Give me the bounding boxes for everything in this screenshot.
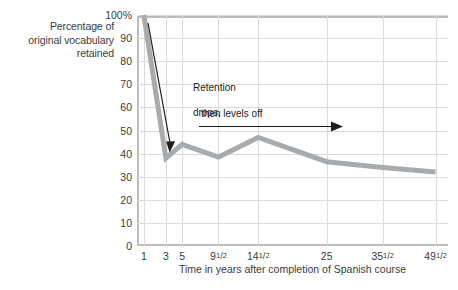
- y-tick-label: 30: [120, 171, 132, 183]
- y-axis-title-line-3: retained: [6, 47, 114, 61]
- annotation-then-levels-off: then levels off: [201, 108, 263, 121]
- annotation-retention-drops-line-1: Retention: [193, 82, 236, 95]
- gridline-vertical: [166, 15, 167, 246]
- x-tick-label: 491/2: [424, 250, 447, 262]
- gridline-horizontal: [137, 223, 448, 224]
- x-tick-label: 1: [141, 250, 147, 262]
- plot-area: 100%9080706050403020100 13591/2141/22535…: [137, 15, 448, 246]
- x-tick-label: 5: [179, 250, 185, 262]
- gridline-vertical: [383, 15, 384, 246]
- gridline-vertical: [182, 15, 183, 246]
- y-tick-label: 70: [120, 78, 132, 90]
- gridline-horizontal: [137, 200, 448, 201]
- x-axis-title: Time in years after completion of Spanis…: [137, 263, 448, 275]
- gridline-vertical: [258, 15, 259, 246]
- y-tick-label: 100%: [105, 9, 132, 21]
- chart-figure: Percentage of original vocabulary retain…: [0, 0, 458, 290]
- y-tick-label: 10: [120, 217, 132, 229]
- x-tick-label: 141/2: [247, 250, 270, 262]
- x-axis-line: [137, 244, 448, 246]
- gridline-horizontal: [137, 38, 448, 39]
- x-tick-label: 3: [163, 250, 169, 262]
- gridline-horizontal: [137, 177, 448, 178]
- y-tick-label: 50: [120, 125, 132, 137]
- y-tick-label: 20: [120, 194, 132, 206]
- x-tick-label: 351/2: [371, 250, 394, 262]
- gridline-horizontal: [137, 15, 448, 16]
- gridline-vertical: [436, 15, 437, 246]
- gridline-vertical: [327, 15, 328, 246]
- gridline-horizontal: [137, 61, 448, 62]
- y-tick-label: 80: [120, 55, 132, 67]
- x-tick-label: 91/2: [210, 250, 227, 262]
- y-tick-label: 40: [120, 148, 132, 160]
- gridline-horizontal: [137, 107, 448, 108]
- gridline-horizontal: [137, 84, 448, 85]
- y-tick-label: 0: [126, 240, 132, 252]
- x-tick-label: 25: [321, 250, 333, 262]
- y-tick-label: 90: [120, 32, 132, 44]
- y-axis-title: Percentage of original vocabulary retain…: [6, 20, 114, 61]
- y-tick-label: 60: [120, 101, 132, 113]
- gridline-vertical: [144, 15, 145, 246]
- gridline-horizontal: [137, 154, 448, 155]
- y-axis-title-line-1: Percentage of: [6, 20, 114, 34]
- annotation-retention-drops: Retention drops,: [193, 69, 236, 132]
- y-axis-title-line-2: original vocabulary: [6, 34, 114, 48]
- gridline-horizontal: [137, 131, 448, 132]
